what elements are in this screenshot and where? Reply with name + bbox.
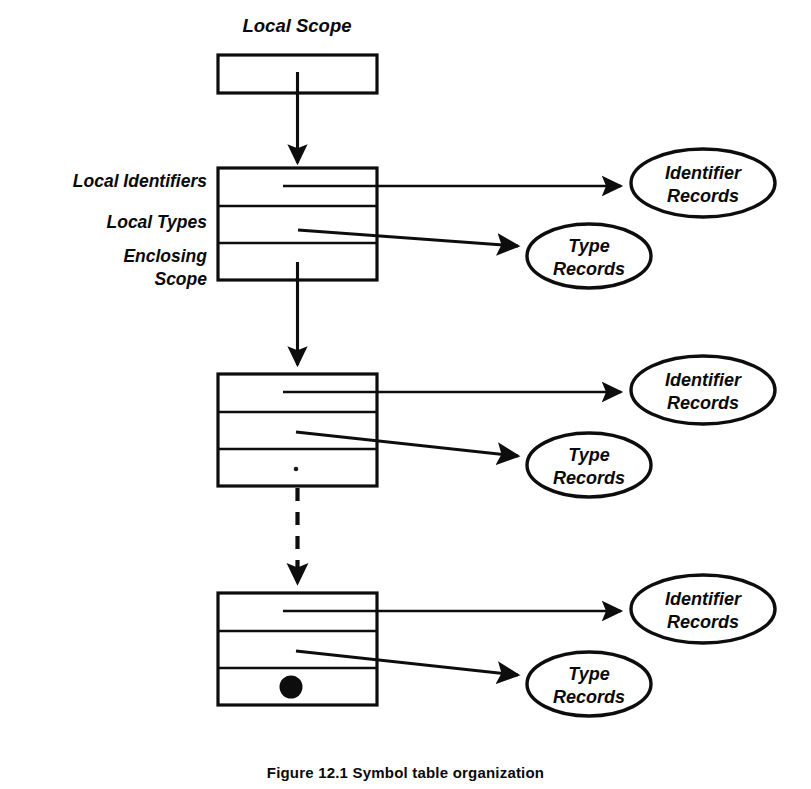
type-records-2-line1: Type bbox=[568, 445, 609, 465]
row-label-local-types: Local Types bbox=[107, 212, 208, 232]
symbol-table-diagram: Local Scope Local Identifiers Local Type… bbox=[0, 0, 811, 789]
row-label-scope: Scope bbox=[154, 269, 207, 289]
identifier-records-1-line1: Identifier bbox=[665, 163, 742, 183]
identifier-records-2-ellipse bbox=[631, 356, 775, 424]
identifier-records-1-line2: Records bbox=[667, 186, 739, 206]
identifier-records-1[interactable]: Identifier Records bbox=[631, 149, 775, 217]
type-records-2-line2: Records bbox=[553, 468, 625, 488]
identifier-records-2-line1: Identifier bbox=[665, 370, 742, 390]
identifier-records-2[interactable]: Identifier Records bbox=[631, 356, 775, 424]
figure-canvas: Local Scope Local Identifiers Local Type… bbox=[0, 0, 811, 789]
type-records-3[interactable]: Type Records bbox=[527, 652, 651, 716]
second-scope-small-dot bbox=[294, 467, 299, 472]
figure-caption: Figure 12.1 Symbol table organization bbox=[0, 764, 811, 789]
identifier-records-1-ellipse bbox=[631, 149, 775, 217]
type-records-3-line1: Type bbox=[568, 664, 609, 684]
identifier-records-3-line2: Records bbox=[667, 612, 739, 632]
identifier-records-3[interactable]: Identifier Records bbox=[631, 575, 775, 643]
type-records-2[interactable]: Type Records bbox=[527, 433, 651, 497]
identifier-records-2-line2: Records bbox=[667, 393, 739, 413]
identifier-records-3-ellipse bbox=[631, 575, 775, 643]
page-title: Local Scope bbox=[243, 15, 352, 36]
row-label-local-identifiers: Local Identifiers bbox=[73, 171, 207, 191]
identifier-records-3-line1: Identifier bbox=[665, 589, 742, 609]
last-scope-nil-dot bbox=[280, 676, 303, 699]
type-records-1[interactable]: Type Records bbox=[527, 224, 651, 288]
type-records-1-line1: Type bbox=[568, 236, 609, 256]
type-records-1-line2: Records bbox=[553, 259, 625, 279]
row-label-enclosing: Enclosing bbox=[123, 246, 207, 266]
type-records-3-line2: Records bbox=[553, 687, 625, 707]
